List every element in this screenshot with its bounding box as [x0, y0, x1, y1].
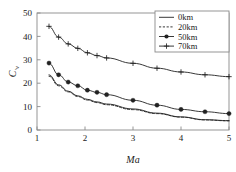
x-axis-ticks: 12345	[35, 127, 232, 144]
y-tick-label: 20	[23, 78, 33, 88]
legend-marker-sample	[164, 34, 168, 38]
figure-container: 01020304050 12345 0km20km50km70km C'v Ma	[0, 0, 236, 172]
data-point-marker	[85, 88, 89, 92]
data-point-marker	[131, 98, 135, 102]
data-point-marker	[47, 61, 51, 65]
y-tick-label: 0	[28, 125, 33, 135]
data-point-marker	[95, 90, 99, 94]
y-tick-label: 40	[23, 32, 33, 42]
data-point-marker	[179, 107, 183, 111]
data-point-marker	[85, 50, 90, 55]
data-point-marker	[56, 34, 61, 39]
x-axis-label: Ma	[125, 154, 139, 165]
data-point-marker	[178, 69, 183, 74]
data-point-marker	[154, 66, 159, 71]
data-point-marker	[130, 61, 135, 66]
data-point-marker	[227, 112, 231, 116]
data-point-marker	[76, 84, 80, 88]
data-point-marker	[94, 53, 99, 58]
legend-item-label: 20km	[178, 22, 198, 32]
y-axis-label: C'v	[7, 65, 21, 77]
data-point-marker	[105, 93, 109, 97]
chart-legend: 0km20km50km70km	[155, 11, 229, 52]
data-point-marker	[202, 72, 207, 77]
chart-canvas: 01020304050 12345 0km20km50km70km C'v Ma	[0, 0, 236, 172]
x-tick-label: 1	[35, 133, 40, 143]
data-point-marker	[104, 55, 109, 60]
data-point-marker	[226, 74, 231, 79]
y-tick-label: 10	[23, 102, 33, 112]
x-tick-label: 4	[179, 133, 184, 143]
series-line	[49, 75, 229, 121]
series-0km	[49, 75, 229, 121]
x-tick-label: 2	[83, 133, 88, 143]
data-point-marker	[75, 46, 80, 51]
x-tick-label: 5	[227, 133, 232, 143]
y-tick-label: 30	[23, 55, 33, 65]
legend-item-label: 50km	[178, 32, 198, 42]
data-point-marker	[57, 73, 61, 77]
series-20km	[49, 76, 229, 121]
y-axis-ticks: 01020304050	[23, 8, 41, 135]
series-line	[49, 63, 229, 114]
y-tick-label: 50	[23, 8, 33, 18]
data-point-marker	[66, 80, 70, 84]
data-point-marker	[155, 103, 159, 107]
series-line	[49, 76, 229, 121]
data-point-marker	[203, 110, 207, 114]
data-point-marker	[66, 41, 71, 46]
x-tick-label: 3	[131, 133, 136, 143]
legend-item-label: 0km	[178, 12, 194, 22]
series-50km	[47, 61, 231, 116]
data-point-marker	[46, 24, 51, 29]
legend-item-label: 70km	[178, 41, 198, 51]
